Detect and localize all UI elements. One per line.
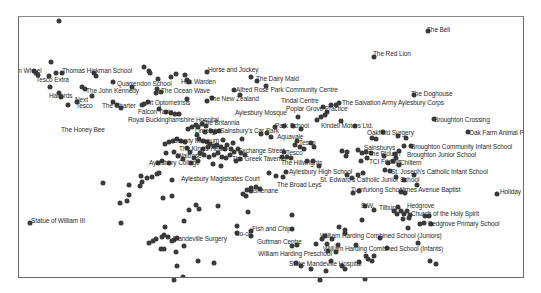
map-point-marker[interactable] [170, 194, 175, 199]
map-point-marker[interactable] [231, 141, 236, 146]
map-point-marker[interactable] [281, 175, 286, 180]
map-point-marker[interactable] [181, 275, 186, 279]
map-point-label: Quarrendon School [117, 80, 172, 87]
map-point-marker[interactable] [401, 217, 406, 222]
map-point-marker[interactable] [245, 188, 250, 193]
map-point-marker[interactable] [314, 242, 319, 247]
map-point-marker[interactable] [187, 208, 192, 213]
map-point-marker[interactable] [119, 221, 124, 226]
map-point-marker[interactable] [404, 136, 409, 141]
map-point-marker[interactable] [374, 137, 379, 142]
map-point-marker[interactable] [148, 71, 153, 76]
map-point-marker[interactable] [172, 278, 177, 283]
map-point-label: The Bell [427, 26, 450, 33]
map-point-marker[interactable] [54, 71, 59, 76]
map-point-label: Aylesbury Mosque [235, 109, 287, 116]
map-point-marker[interactable] [212, 261, 217, 266]
map-point-marker[interactable] [434, 262, 439, 267]
map-point-marker[interactable] [211, 162, 216, 167]
map-point-marker[interactable] [235, 224, 240, 229]
map-point-marker[interactable] [90, 94, 95, 99]
map-point-marker[interactable] [406, 226, 411, 231]
map-point-marker[interactable] [361, 171, 366, 176]
map-canvas[interactable]: The BellThe Red LionHorse and JockeyThe … [18, 16, 524, 278]
map-point-marker[interactable] [274, 174, 279, 179]
map-point-marker[interactable] [360, 218, 365, 223]
map-point-marker[interactable] [219, 164, 224, 169]
map-point-marker[interactable] [340, 149, 345, 154]
map-point-marker[interactable] [318, 278, 323, 283]
map-point-marker[interactable] [216, 204, 221, 209]
map-point-marker[interactable] [182, 244, 187, 249]
map-point-marker[interactable] [57, 19, 62, 24]
map-point-marker[interactable] [356, 148, 361, 153]
map-point-marker[interactable] [147, 241, 152, 246]
map-point-marker[interactable] [155, 87, 160, 92]
map-point-marker[interactable] [111, 80, 116, 85]
map-point-marker[interactable] [172, 150, 177, 155]
map-point-marker[interactable] [269, 135, 274, 140]
map-point-label: Falcon Taxis [138, 108, 173, 115]
map-point-label: The Charter [102, 102, 136, 109]
map-point-marker[interactable] [249, 75, 254, 80]
map-point-marker[interactable] [48, 85, 53, 90]
map-point-label: Broughton Community Infant School [411, 143, 512, 150]
map-point-marker[interactable] [324, 269, 329, 274]
map-point-marker[interactable] [174, 72, 179, 77]
map-point-marker[interactable] [422, 221, 427, 226]
map-point-marker[interactable] [175, 264, 180, 269]
map-point-label: Aylesbury College [149, 159, 200, 166]
map-point-label: The King's Head [179, 145, 225, 152]
map-point-marker[interactable] [150, 175, 155, 180]
map-point-marker[interactable] [142, 65, 147, 70]
map-point-marker[interactable] [157, 171, 162, 176]
map-point-marker[interactable] [343, 267, 348, 272]
map-point-marker[interactable] [360, 151, 365, 156]
map-point-marker[interactable] [169, 75, 174, 80]
map-point-marker[interactable] [118, 201, 123, 206]
map-point-marker[interactable] [197, 207, 202, 212]
map-point-marker[interactable] [101, 181, 106, 186]
map-point-marker[interactable] [337, 225, 342, 230]
map-point-marker[interactable] [162, 247, 167, 252]
map-point-marker[interactable] [359, 159, 364, 164]
map-point-marker[interactable] [244, 194, 249, 199]
map-point-marker[interactable] [125, 199, 130, 204]
map-point-label: Mandeville Surgery [173, 235, 227, 242]
map-point-marker[interactable] [309, 267, 314, 272]
map-point-marker[interactable] [402, 144, 407, 149]
map-point-marker[interactable] [138, 184, 143, 189]
map-point-marker[interactable] [174, 250, 179, 255]
map-point-marker[interactable] [344, 154, 349, 159]
map-point-marker[interactable] [240, 137, 245, 142]
map-point-marker[interactable] [372, 254, 377, 259]
map-point-label: William Harding Combined School (Infants… [323, 245, 443, 252]
map-point-marker[interactable] [196, 259, 201, 264]
map-point-marker[interactable] [66, 103, 71, 108]
map-point-marker[interactable] [139, 174, 144, 179]
map-point-marker[interactable] [161, 196, 166, 201]
map-point-marker[interactable] [182, 219, 187, 224]
map-point-marker[interactable] [170, 178, 175, 183]
map-point-marker[interactable] [162, 233, 167, 238]
map-point-marker[interactable] [221, 138, 226, 143]
map-point-marker[interactable] [495, 192, 500, 197]
map-point-marker[interactable] [296, 115, 301, 120]
map-point-marker[interactable] [370, 259, 375, 264]
map-point-marker[interactable] [49, 60, 54, 65]
map-point-marker[interactable] [290, 213, 295, 218]
map-point-label: Oakfield Surgery [367, 129, 414, 136]
map-point-marker[interactable] [428, 259, 433, 264]
map-point-marker[interactable] [163, 142, 168, 147]
map-point-marker[interactable] [246, 210, 251, 215]
map-point-label: The Broad Leys [277, 181, 322, 188]
map-point-marker[interactable] [284, 170, 289, 175]
map-point-marker[interactable] [127, 193, 132, 198]
map-point-label: The Dairy Maid [256, 75, 299, 82]
map-point-marker[interactable] [94, 74, 99, 79]
map-point-label: Shenane [253, 187, 278, 194]
map-point-marker[interactable] [164, 151, 169, 156]
map-point-marker[interactable] [163, 225, 168, 230]
map-point-marker[interactable] [267, 171, 272, 176]
map-point-marker[interactable] [127, 183, 132, 188]
